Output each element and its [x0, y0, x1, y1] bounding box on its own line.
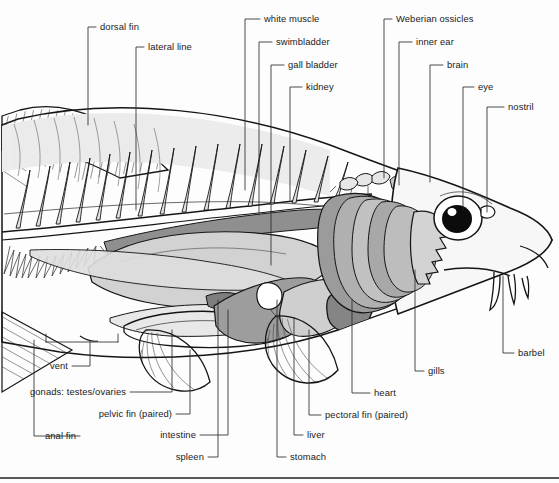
fish-anatomy-figure: dorsal finlateral linewhite muscleswimbl… [0, 0, 559, 483]
label-intestine: intestine [160, 429, 196, 440]
label-anal-fin: anal fin [45, 430, 76, 441]
label-vent: vent [50, 360, 68, 371]
callout-pectoral-fin[interactable]: pectoral fin (paired) [309, 330, 408, 420]
label-brain: brain [447, 59, 468, 70]
label-eye: eye [478, 81, 493, 92]
callout-dorsal-fin[interactable]: dorsal fin [88, 21, 139, 125]
eye-shape [434, 196, 482, 240]
label-nostril: nostril [508, 101, 534, 112]
leader-line-swimbladder [259, 42, 272, 215]
label-white-muscle: white muscle [263, 13, 319, 24]
vent-shape [80, 336, 98, 341]
head-group [318, 168, 552, 314]
label-pelvic-fin: pelvic fin (paired) [99, 408, 172, 419]
label-stomach: stomach [290, 451, 326, 462]
gall-bladder-shape [257, 283, 282, 310]
label-weberian-ossicles: Weberian ossicles [396, 13, 474, 24]
label-gall-bladder: gall bladder [288, 59, 338, 70]
label-barbel: barbel [518, 347, 545, 358]
white-muscle-region [2, 113, 330, 196]
leader-line-inner-ear [399, 42, 412, 185]
leader-line-dorsal-fin [88, 27, 96, 125]
anatomy-svg: dorsal finlateral linewhite muscleswimbl… [0, 0, 559, 483]
label-gills: gills [428, 365, 445, 376]
callout-inner-ear[interactable]: inner ear [399, 36, 454, 185]
callout-vent[interactable]: vent [46, 334, 118, 371]
label-swimbladder: swimbladder [276, 36, 330, 47]
label-inner-ear: inner ear [416, 36, 454, 47]
label-pectoral-fin: pectoral fin (paired) [325, 409, 408, 420]
label-gonads: gonads: testes/ovaries [30, 386, 126, 397]
fish-body-group [0, 90, 552, 416]
leader-line-pectoral-fin [309, 330, 321, 415]
barbel-shape [490, 272, 529, 310]
leader-line-nostril [487, 107, 504, 212]
label-lateral-line: lateral line [148, 41, 192, 52]
label-dorsal-fin: dorsal fin [100, 21, 139, 32]
pelvic-fin-rays [136, 326, 198, 406]
callout-pelvic-fin[interactable]: pelvic fin (paired) [99, 350, 190, 419]
label-heart: heart [374, 387, 396, 398]
pelvic-fin-shape [136, 326, 210, 406]
label-spleen: spleen [176, 451, 204, 462]
leader-line-weberian-ossicles [384, 19, 392, 178]
leader-line-brain [430, 65, 443, 182]
callout-nostril[interactable]: nostril [487, 101, 534, 212]
leader-line-pelvic-fin [176, 350, 190, 414]
nostril-shape [481, 206, 495, 218]
leader-line-barbel [503, 276, 514, 353]
label-kidney: kidney [306, 81, 334, 92]
label-liver: liver [307, 429, 325, 440]
